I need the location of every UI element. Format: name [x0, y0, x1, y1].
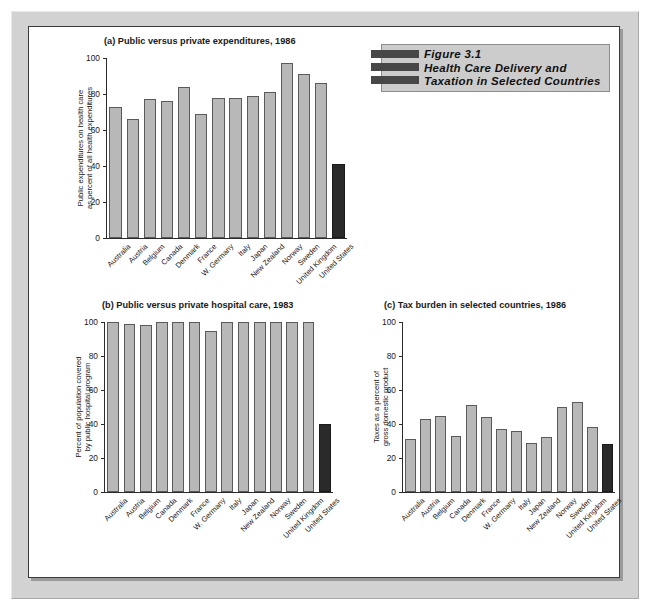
chart-c-y-tick-label: 80: [387, 351, 396, 361]
bar-belgium[interactable]: [144, 99, 156, 238]
chart-c-y-axis-label-line-2: gross domestic product: [381, 322, 390, 492]
bar-slot: [509, 322, 524, 492]
bar-slot: [554, 322, 569, 492]
bar-slot: [296, 58, 313, 238]
bar-slot: [186, 322, 202, 492]
bar-slot: [105, 322, 121, 492]
bar-slot: [244, 58, 261, 238]
chart-a-y-axis-label: Public expenditures on health careas per…: [76, 58, 94, 238]
title-bar-1-icon: [371, 50, 419, 58]
bar-united-kingdom[interactable]: [315, 83, 327, 238]
bar-united-states[interactable]: [602, 444, 613, 492]
figure-title-line-3: Taxation in Selected Countries: [424, 75, 610, 89]
bar-slot: [570, 322, 585, 492]
bar-sweden[interactable]: [298, 74, 310, 238]
bar-slot: [403, 322, 418, 492]
bar-slot: [121, 322, 137, 492]
bar-sweden[interactable]: [286, 322, 298, 492]
bar-slot: [479, 322, 494, 492]
figure-number: Figure 3.1: [424, 48, 610, 62]
bar-denmark[interactable]: [466, 405, 477, 492]
chart-c-title: (c) Tax burden in selected countries, 19…: [384, 300, 566, 310]
bar-united-states[interactable]: [319, 424, 331, 492]
bar-italy[interactable]: [221, 322, 233, 492]
bar-france[interactable]: [481, 417, 492, 492]
bar-italy[interactable]: [229, 98, 241, 238]
bar-belgium[interactable]: [140, 325, 152, 492]
chart-c-y-tick-label: 40: [387, 419, 396, 429]
chart-a-y-axis-label-line-1: Public expenditures on health care: [76, 58, 85, 238]
figure-title-text: Figure 3.1 Health Care Delivery and Taxa…: [424, 48, 610, 89]
chart-b-y-axis-label: Percent of population coveredby public h…: [74, 322, 92, 492]
bar-new-zealand[interactable]: [264, 92, 276, 238]
bar-w-germany[interactable]: [205, 331, 217, 493]
bar-slot: [227, 58, 244, 238]
chart-b-y-axis-label-line-2: by public hospital program: [83, 322, 92, 492]
bar-slot: [141, 58, 158, 238]
bar-w-germany[interactable]: [496, 429, 507, 492]
bar-austria[interactable]: [420, 419, 431, 492]
bar-slot: [524, 322, 539, 492]
bar-slot: [313, 58, 330, 238]
chart-b-bars: [105, 322, 333, 492]
bar-norway[interactable]: [270, 322, 282, 492]
chart-b-y-tick-label: 60: [89, 385, 98, 395]
chart-b-public-private-hospital-care: (b) Public versus private hospital care,…: [58, 300, 342, 572]
bar-slot: [448, 322, 463, 492]
bar-slot: [600, 322, 615, 492]
bar-slot: [210, 58, 227, 238]
bar-japan[interactable]: [247, 96, 259, 238]
bar-france[interactable]: [195, 114, 207, 238]
chart-a-y-tick-label: 80: [91, 89, 100, 99]
bar-japan[interactable]: [238, 322, 250, 492]
bar-slot: [219, 322, 235, 492]
bar-australia[interactable]: [405, 439, 416, 492]
bar-austria[interactable]: [124, 324, 136, 492]
bar-sweden[interactable]: [572, 402, 583, 492]
chart-a-plot-area: 020406080100AustraliaAustriaBelgiumCanad…: [106, 58, 347, 239]
bar-belgium[interactable]: [435, 416, 446, 493]
bar-united-kingdom[interactable]: [587, 427, 598, 492]
chart-b-y-tick-label: 80: [89, 351, 98, 361]
chart-c-y-tick: 0: [399, 492, 403, 493]
bar-slot: [317, 322, 333, 492]
bar-slot: [203, 322, 219, 492]
bar-australia[interactable]: [109, 107, 121, 238]
bar-slot: [464, 322, 479, 492]
chart-c-y-tick-label: 0: [391, 487, 396, 497]
bar-united-states[interactable]: [332, 164, 344, 238]
bar-canada[interactable]: [156, 322, 168, 492]
bar-norway[interactable]: [557, 407, 568, 492]
bar-france[interactable]: [189, 322, 201, 492]
bar-slot: [300, 322, 316, 492]
bar-new-zealand[interactable]: [254, 322, 266, 492]
chart-b-y-tick-label: 40: [89, 419, 98, 429]
chart-a-y-tick-label: 40: [91, 161, 100, 171]
bar-united-kingdom[interactable]: [303, 322, 315, 492]
bar-slot: [268, 322, 284, 492]
bar-denmark[interactable]: [178, 87, 190, 238]
bar-slot: [585, 322, 600, 492]
bar-slot: [330, 58, 347, 238]
bar-italy[interactable]: [511, 431, 522, 492]
chart-a-bars: [107, 58, 347, 238]
bar-new-zealand[interactable]: [541, 437, 552, 492]
bar-canada[interactable]: [161, 101, 173, 238]
figure-title-bars: [371, 50, 419, 88]
chart-c-y-tick-label: 60: [387, 385, 396, 395]
bar-slot: [170, 322, 186, 492]
bar-australia[interactable]: [107, 322, 119, 492]
bar-canada[interactable]: [451, 436, 462, 492]
bar-w-germany[interactable]: [212, 98, 224, 238]
bar-slot: [494, 322, 509, 492]
chart-a-y-tick-label: 0: [95, 233, 100, 243]
chart-c-bars: [403, 322, 615, 492]
chart-a-y-axis-label-line-2: as percent of all health expenditures: [85, 58, 94, 238]
bar-denmark[interactable]: [172, 322, 184, 492]
chart-b-y-tick-label: 0: [93, 487, 98, 497]
bar-norway[interactable]: [281, 63, 293, 238]
bar-austria[interactable]: [127, 119, 139, 238]
bar-slot: [284, 322, 300, 492]
chart-c-y-tick-label: 20: [387, 453, 396, 463]
bar-japan[interactable]: [526, 443, 537, 492]
